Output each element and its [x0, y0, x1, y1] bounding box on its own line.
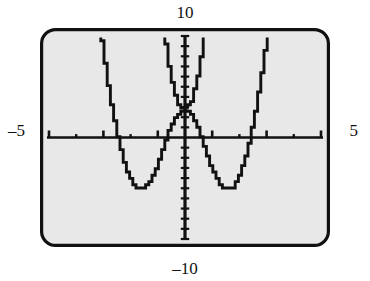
plot-canvas	[40, 28, 330, 247]
axis-label-left: –5	[8, 122, 25, 139]
calculator-screen	[40, 28, 330, 247]
axis-label-top: 10	[0, 4, 370, 21]
graph-figure: 10 –5 5 –10	[0, 0, 370, 281]
axis-label-bottom: –10	[0, 260, 370, 277]
axis-label-right: 5	[350, 122, 359, 139]
